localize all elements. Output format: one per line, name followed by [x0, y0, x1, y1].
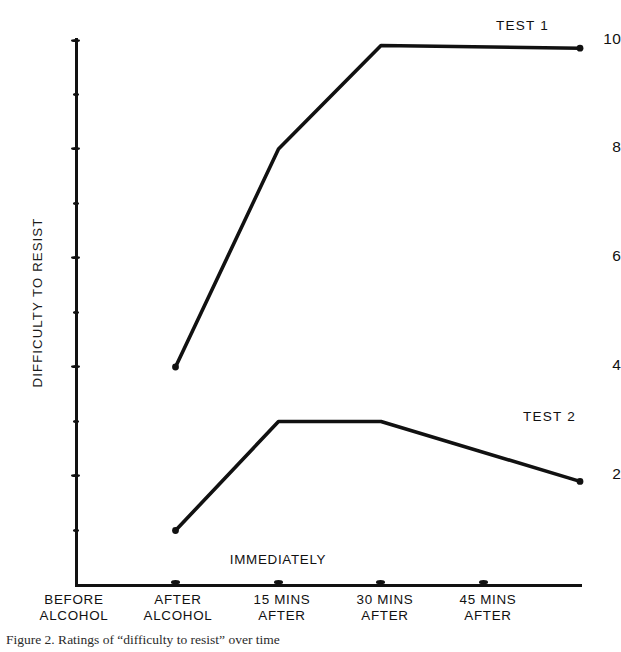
series-line-test-2 [176, 422, 581, 531]
series-markers-test-1 [172, 45, 583, 371]
series-label-test-2: TEST 2 [523, 409, 576, 424]
series-label-test-1: TEST 1 [496, 18, 549, 33]
series-markers-test-2 [172, 478, 583, 534]
figure-chart-difficulty-to-resist: 10 8 6 4 2 DIFFICULTY TO RESIST IMMEDIAT… [0, 0, 621, 652]
plot-area [0, 0, 621, 652]
series-line-test-1 [176, 46, 581, 368]
figure-caption: Figure 2. Ratings of “difficulty to resi… [6, 632, 616, 648]
